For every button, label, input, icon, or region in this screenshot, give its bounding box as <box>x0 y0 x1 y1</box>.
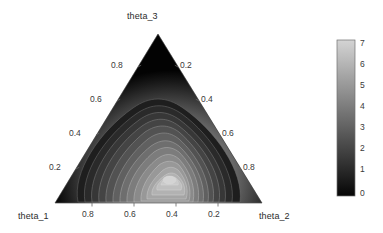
colorbar-tick-1: 1 <box>360 164 365 174</box>
left-tick-1: 0.6 <box>90 94 102 104</box>
colorbar-tick-3: 3 <box>360 122 365 132</box>
bottom-tick-3: 0.2 <box>208 209 220 219</box>
colorbar-tick-0: 0 <box>360 188 365 198</box>
colorbar-gradient <box>337 40 355 196</box>
left-tick-2: 0.4 <box>69 128 81 138</box>
right-tick-2: 0.6 <box>222 128 234 138</box>
corner-label-theta1: theta_1 <box>18 211 49 221</box>
colorbar-tick-4: 4 <box>360 101 365 111</box>
corner-label-theta3: theta_3 <box>127 11 158 21</box>
right-tick-3: 0.8 <box>243 162 255 172</box>
right-tick-1: 0.4 <box>201 94 213 104</box>
corner-label-theta2: theta_2 <box>259 211 290 221</box>
right-tick-0: 0.2 <box>180 60 192 70</box>
colorbar-tick-2: 2 <box>360 143 365 153</box>
bottom-tick-2: 0.4 <box>166 209 178 219</box>
bottom-tick-0: 0.8 <box>82 209 94 219</box>
contour-peak <box>163 176 176 184</box>
bottom-tick-1: 0.6 <box>124 209 136 219</box>
ternary-contour-figure: theta_3 theta_1 theta_2 0.8 0.6 0.4 0.2 … <box>0 0 383 233</box>
left-tick-0: 0.8 <box>111 60 123 70</box>
colorbar-tick-7: 7 <box>360 38 365 48</box>
ternary-plot-svg <box>0 0 383 233</box>
left-tick-3: 0.2 <box>49 162 61 172</box>
colorbar-group <box>337 40 355 196</box>
colorbar-tick-5: 5 <box>360 80 365 90</box>
colorbar-tick-6: 6 <box>360 59 365 69</box>
